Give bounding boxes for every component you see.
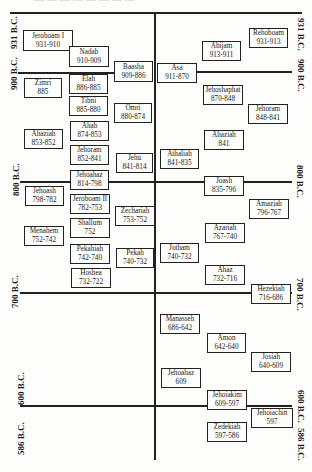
left-label-800bc: 800 B.C. [11,163,21,196]
king-years: 841-835 [168,159,192,168]
king-box-amon: Amon 642-640 [207,333,246,353]
left-label-700bc: 700 B.C. [10,275,20,308]
king-years: 752 [85,228,96,237]
right-label-600bc: 600 B.C. [296,390,306,423]
king-box-omri: Omri 880-874 [114,103,152,123]
king-name: Josiah [262,353,280,362]
king-years: 874-853 [78,131,102,140]
king-years: 640-609 [259,362,283,371]
top-border-line [10,12,302,14]
king-years: 885 [38,88,49,97]
king-box-jehoiakim: Jehoiakim 609-597 [207,390,247,410]
king-box-ahaziah-israel: Ahaziah 853-852 [24,129,63,149]
left-label-600bc: 600 B.C. [16,372,26,405]
king-years: 848-841 [256,114,280,123]
king-years: 740-732 [123,258,147,267]
king-name: Joash [216,177,232,186]
king-years: 880-874 [121,113,145,122]
king-name: Jehoahaz [76,171,102,180]
king-box-hezekiah: Hezekiah 716-686 [251,284,291,304]
king-name: Jeroboam I [32,32,64,41]
king-name: Rehoboam [253,29,284,38]
king-name: Jeroboam II [73,195,108,204]
king-name: Zimri [35,79,51,88]
king-years: 841-814 [123,163,147,172]
king-box-athaliah: Athaliah 841-835 [160,149,199,169]
right-label-931bc: 931 B.C. [296,18,306,51]
king-name: Pekah [126,249,144,258]
king-name: Ahaziah [32,130,56,139]
king-box-hoshea: Hoshea 732-722 [71,268,111,288]
king-box-jehoiachin: Jehoiachin 597 [251,408,293,428]
king-name: Jehoahaz [168,369,194,378]
king-years: 853-852 [32,139,56,148]
king-box-ahaz: Ahaz 732-716 [205,265,245,285]
line-900bc-right [196,71,292,73]
king-box-jehoshaphat: Jehoshaphat 870-848 [203,85,243,105]
king-years: 597-586 [215,432,239,441]
king-years: 931-910 [36,41,60,50]
king-box-jehoram-judah: Jehoram 848-841 [248,104,288,124]
king-name: Omri [125,104,140,113]
line-800bc [20,181,292,183]
king-box-pekah: Pekah 740-732 [116,248,154,268]
king-name: Jehoiakim [212,391,242,400]
king-name: Jehoash [33,187,56,196]
king-years: 597 [267,418,278,427]
king-name: Pekahiah [77,245,103,254]
king-name: Amaziah [256,200,282,209]
king-years: 841 [219,140,230,149]
king-years: 796-767 [257,209,281,218]
king-years: 716-686 [259,294,283,303]
king-box-zimri: Zimri 885 [24,78,62,98]
right-label-700bc: 700 B.C. [295,278,305,311]
king-years: 609-597 [215,400,239,409]
king-box-tibni: Tibni 885-880 [69,96,108,116]
king-box-jotham: Jotham 740-732 [160,243,199,263]
king-box-jehoash: Jehoash 798-782 [25,186,64,206]
king-years: 752-742 [32,236,56,245]
king-name: Asa [171,64,182,73]
king-years: 686-642 [168,324,192,333]
king-box-nadab: Nadab 910-909 [69,46,109,67]
king-name: Abijam [211,42,233,51]
king-name: Jehoshaphat [205,86,240,95]
king-box-elah: Elah 886-885 [69,74,108,94]
king-box-pekahiah: Pekahiah 742-740 [70,244,110,264]
king-years: 732-722 [79,278,103,287]
left-label-931bc: 931 B.C. [9,16,19,49]
king-years: 798-782 [33,196,57,205]
king-box-zedekiah: Zedekiah 597-586 [207,422,247,442]
king-years: 886-885 [77,84,101,93]
king-years: 642-640 [215,343,239,352]
king-years: 742-740 [78,254,102,263]
king-name: Ahab [82,122,98,131]
king-box-rehoboam: Rehoboam 931-913 [249,28,288,48]
kingdom-divider-line [154,12,156,460]
king-name: Baasha [123,63,144,72]
king-box-ahaziah-judah: Ahaziah 841 [204,130,244,150]
king-box-jehoahaz-judah: Jehoahaz 609 [161,368,201,388]
line-600bc [20,405,292,407]
king-name: Menahem [30,227,59,236]
king-years: 782-753 [78,204,102,213]
right-label-800bc: 800 B.C. [295,165,305,198]
king-years: 885-880 [77,106,101,115]
king-box-jehu: Jehu 841-814 [116,153,153,173]
king-box-ahab: Ahab 874-853 [70,121,109,141]
king-name: Zedekiah [214,423,241,432]
king-box-jeroboam-i: Jeroboam I 931-910 [23,30,73,51]
king-years: 814-798 [78,180,102,189]
king-name: Tibni [81,97,96,106]
king-box-asa: Asa 911-870 [157,63,197,83]
king-name: Jehoiachin [257,409,288,418]
king-name: Elah [82,75,95,84]
king-years: 609 [176,378,187,387]
king-years: 870-848 [211,95,235,104]
king-years: 910-909 [77,57,101,66]
king-name: Azariah [214,224,237,233]
left-label-586bc: 586 B.C. [16,422,26,455]
king-years: 835-796 [212,186,236,195]
king-name: Zechariah [121,207,150,216]
king-name: Manasseh [166,315,195,324]
